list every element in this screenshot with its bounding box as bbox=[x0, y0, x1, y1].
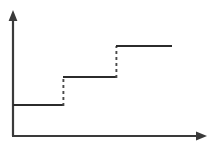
step-function-chart bbox=[0, 0, 213, 146]
y-axis-arrowhead bbox=[9, 10, 18, 21]
x-axis-arrowhead bbox=[196, 132, 207, 141]
chart-canvas bbox=[0, 0, 213, 146]
